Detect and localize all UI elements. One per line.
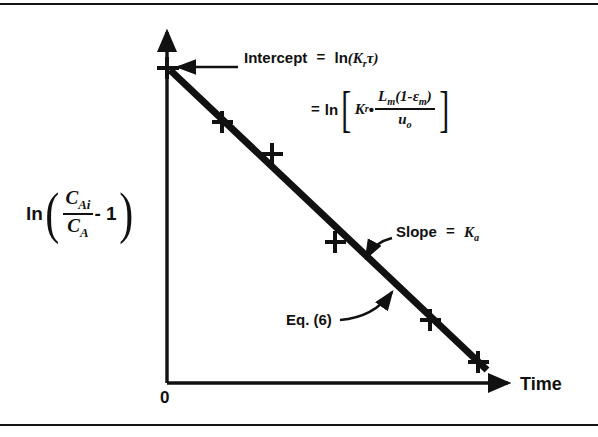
y-axis-label: ln ( CAi CA - 1 ) <box>26 188 135 239</box>
expanded-ln: ln <box>325 102 338 117</box>
slope-equals: = <box>446 223 455 238</box>
expanded-equals: = <box>311 101 320 116</box>
intercept-k-symbol: K <box>353 50 363 66</box>
origin-label: 0 <box>160 389 169 406</box>
y-label-numerator: CAi <box>63 188 94 213</box>
y-label-minus-one: - 1 <box>94 204 116 223</box>
y-label-fraction: CAi CA <box>63 188 94 239</box>
expanded-close-bracket: ] <box>439 93 449 126</box>
slope-k-subscript: a <box>474 232 479 243</box>
y-label-close-paren: ) <box>119 196 133 231</box>
slope-label-text: Slope <box>396 223 437 240</box>
figure-panel: ln ( CAi CA - 1 ) Intercept = ln(Krτ) = … <box>0 0 598 437</box>
equation-reference-label: Eq. (6) <box>286 312 332 327</box>
eq6-leader-arrow <box>340 292 392 320</box>
intercept-label: Intercept <box>244 49 307 66</box>
intercept-ln: ln <box>334 49 347 66</box>
y-label-denominator: CA <box>64 215 91 240</box>
intercept-close-paren: ) <box>373 50 378 66</box>
expanded-dot: • <box>369 102 374 117</box>
expanded-fraction: Lm(1-εm) uo <box>375 88 435 130</box>
intercept-annotation: Intercept = ln(Krτ) <box>244 50 378 69</box>
y-label-open-paren: ( <box>45 196 59 231</box>
slope-annotation: Slope = Ka <box>396 224 479 243</box>
x-axis-label: Time <box>520 375 562 393</box>
expanded-denominator: uo <box>395 110 414 130</box>
slope-k-symbol: K <box>464 224 474 240</box>
expanded-numerator: Lm(1-εm) <box>375 88 435 108</box>
intercept-expanded-annotation: = ln [ Kr • Lm(1-εm) uo ] <box>306 88 452 130</box>
intercept-equals: = <box>317 49 326 64</box>
expanded-k-symbol: K <box>355 102 365 117</box>
expanded-open-bracket: [ <box>341 93 351 126</box>
y-label-ln: ln <box>26 204 43 223</box>
